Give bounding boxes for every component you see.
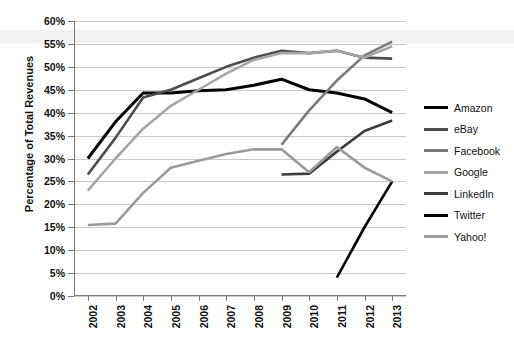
y-axis-tick-label: 40% bbox=[44, 107, 65, 119]
legend-label: Twitter bbox=[454, 209, 485, 221]
y-axis-tick-label: 35% bbox=[44, 130, 65, 142]
x-axis-tick bbox=[337, 296, 338, 301]
y-axis-tick-label: 15% bbox=[44, 221, 65, 233]
y-axis-tick-label: 5% bbox=[50, 267, 65, 279]
legend-label: eBay bbox=[454, 123, 478, 135]
x-axis-tick-label: 2012 bbox=[364, 305, 376, 328]
legend-swatch-icon bbox=[424, 106, 448, 109]
x-axis-tick-label: 2009 bbox=[281, 305, 293, 328]
series-line bbox=[88, 147, 392, 225]
legend-item[interactable]: LinkedIn bbox=[424, 183, 514, 205]
legend-swatch-icon bbox=[424, 235, 448, 238]
x-axis-tick-label: 2005 bbox=[170, 305, 182, 328]
x-axis-tick bbox=[254, 296, 255, 301]
chart-legend: AmazoneBayFacebookGoogleLinkedInTwitterY… bbox=[424, 97, 514, 248]
gridline bbox=[74, 296, 406, 297]
x-axis-tick bbox=[365, 296, 366, 301]
y-axis-tick-label: 60% bbox=[44, 15, 65, 27]
series-line bbox=[337, 181, 392, 277]
line-chart: Percentage of Total Revenues 0%5%10%15%2… bbox=[0, 0, 514, 345]
legend-swatch-icon bbox=[424, 192, 448, 195]
legend-label: LinkedIn bbox=[454, 188, 494, 200]
y-axis-title: Percentage of Total Revenues bbox=[23, 9, 35, 259]
x-axis-tick-label: 2008 bbox=[253, 305, 265, 328]
legend-label: Yahoo! bbox=[454, 231, 487, 243]
x-axis-tick-label: 2010 bbox=[308, 305, 320, 328]
series-lines bbox=[74, 21, 406, 296]
legend-item[interactable]: eBay bbox=[424, 119, 514, 141]
x-axis-tick-label: 2006 bbox=[198, 305, 210, 328]
x-axis-tick-label: 2002 bbox=[87, 305, 99, 328]
legend-swatch-icon bbox=[424, 149, 448, 152]
legend-item[interactable]: Amazon bbox=[424, 97, 514, 119]
x-axis-tick bbox=[143, 296, 144, 301]
legend-item[interactable]: Yahoo! bbox=[424, 226, 514, 248]
x-axis-tick-label: 2004 bbox=[142, 305, 154, 328]
x-axis-tick bbox=[282, 296, 283, 301]
y-axis-tick-label: 50% bbox=[44, 61, 65, 73]
x-axis-tick bbox=[226, 296, 227, 301]
x-axis-tick-label: 2013 bbox=[391, 305, 403, 328]
legend-swatch-icon bbox=[424, 171, 448, 174]
x-axis-tick bbox=[392, 296, 393, 301]
legend-label: Amazon bbox=[454, 102, 493, 114]
plot-area: 0%5%10%15%20%25%30%35%40%45%50%55%60% 20… bbox=[74, 21, 406, 296]
x-axis-tick bbox=[309, 296, 310, 301]
y-axis-tick-label: 10% bbox=[44, 244, 65, 256]
legend-item[interactable]: Facebook bbox=[424, 140, 514, 162]
legend-label: Google bbox=[454, 166, 488, 178]
legend-swatch-icon bbox=[424, 128, 448, 131]
legend-item[interactable]: Twitter bbox=[424, 205, 514, 227]
x-axis-tick-label: 2011 bbox=[336, 305, 348, 328]
series-line bbox=[88, 51, 392, 175]
legend-item[interactable]: Google bbox=[424, 162, 514, 184]
legend-label: Facebook bbox=[454, 145, 500, 157]
x-axis-tick bbox=[88, 296, 89, 301]
y-axis-tick bbox=[68, 296, 74, 297]
x-axis-tick-label: 2003 bbox=[115, 305, 127, 328]
y-axis-tick-label: 20% bbox=[44, 198, 65, 210]
series-line bbox=[88, 79, 392, 158]
series-line bbox=[88, 46, 392, 190]
x-axis-tick bbox=[171, 296, 172, 301]
x-axis-tick bbox=[116, 296, 117, 301]
y-axis-tick-label: 25% bbox=[44, 175, 65, 187]
x-axis-tick bbox=[199, 296, 200, 301]
y-axis-tick-label: 0% bbox=[50, 290, 65, 302]
legend-swatch-icon bbox=[424, 214, 448, 217]
x-axis-tick-label: 2007 bbox=[225, 305, 237, 328]
y-axis-tick-label: 55% bbox=[44, 38, 65, 50]
y-axis-tick-label: 30% bbox=[44, 153, 65, 165]
y-axis-tick-label: 45% bbox=[44, 84, 65, 96]
